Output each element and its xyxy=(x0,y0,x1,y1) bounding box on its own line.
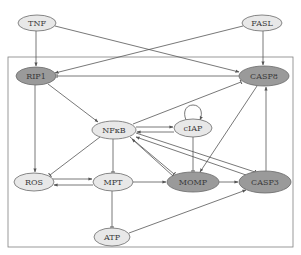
signaling-network-diagram: TNF FASL RIP1 CASP8 NFκB cIAP ROS MPT xyxy=(0,0,301,255)
node-label-casp3: CASP3 xyxy=(251,178,279,187)
node-rip1: RIP1 xyxy=(16,67,56,85)
node-label-nfkb: NFκB xyxy=(102,126,126,135)
node-casp3: CASP3 xyxy=(239,171,291,193)
node-nfkb: NFκB xyxy=(92,121,136,139)
node-ros: ROS xyxy=(14,173,54,191)
node-label-rip1: RIP1 xyxy=(26,72,46,81)
node-mpt: MPT xyxy=(93,173,133,191)
node-fasl: FASL xyxy=(242,15,282,31)
nodes-layer: TNF FASL RIP1 CASP8 NFκB cIAP ROS MPT xyxy=(14,15,291,246)
node-label-mpt: MPT xyxy=(104,178,124,187)
node-label-casp8: CASP8 xyxy=(250,72,278,81)
edge-rip1-nfkb xyxy=(48,84,98,122)
edge-nfkb-casp3 xyxy=(136,133,255,172)
compartment-frame xyxy=(8,57,293,247)
node-casp8: CASP8 xyxy=(239,66,289,86)
edge-cIAP-self xyxy=(185,105,202,120)
edge-momp-nfkb xyxy=(132,139,173,176)
node-atp: ATP xyxy=(94,228,130,246)
node-label-fasl: FASL xyxy=(251,19,273,28)
edge-tnf-casp8 xyxy=(55,26,239,72)
edge-nfkb-casp8 xyxy=(133,82,241,124)
node-label-atp: ATP xyxy=(103,233,121,242)
edge-atp-casp3 xyxy=(129,190,246,233)
node-label-momp: MOMP xyxy=(179,178,208,187)
node-ciap: cIAP xyxy=(174,119,212,137)
node-label-ros: ROS xyxy=(25,178,43,187)
edge-nfkb-ros xyxy=(50,137,100,175)
node-label-ciap: cIAP xyxy=(184,124,203,133)
node-tnf: TNF xyxy=(18,15,56,31)
node-label-tnf: TNF xyxy=(28,19,46,28)
node-momp: MOMP xyxy=(167,172,219,192)
